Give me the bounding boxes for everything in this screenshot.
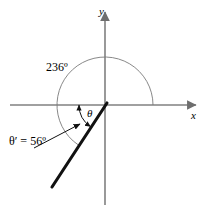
terminal-side-ray [52, 103, 107, 187]
x-axis-label: x [191, 110, 196, 121]
theta-label: θ [87, 108, 92, 119]
angle-diagram-figure: y x 236º θ θ′ = 56º [0, 0, 209, 208]
angle-measure-label: 236º [46, 61, 68, 73]
y-axis-label: y [99, 6, 104, 17]
diagram-canvas [0, 0, 209, 208]
reference-angle-label: θ′ = 56º [9, 135, 46, 147]
